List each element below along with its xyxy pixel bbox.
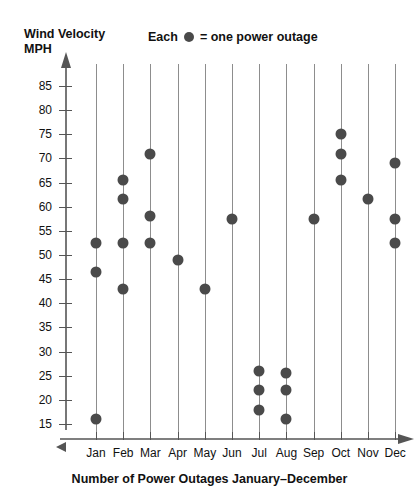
gridline-nov [368, 64, 369, 439]
gridline-mar [150, 64, 151, 439]
data-point [145, 148, 156, 159]
y-axis-tick-label: 25 [28, 369, 52, 383]
y-axis-tick-label: 50 [28, 248, 52, 262]
y-axis-tick [59, 400, 72, 401]
x-axis-label-jun: Jun [222, 446, 241, 460]
x-axis-label-jan: Jan [86, 446, 105, 460]
data-point [91, 237, 102, 248]
data-point [281, 368, 292, 379]
x-axis-tick [395, 432, 396, 440]
y-axis-tick-label: 55 [28, 224, 52, 238]
gridline-sep [314, 64, 315, 439]
gridline-apr [178, 64, 179, 439]
x-axis-tick [286, 432, 287, 440]
x-axis-tick [205, 432, 206, 440]
y-axis-tick [59, 376, 72, 377]
data-point [91, 414, 102, 425]
gridline-jan [96, 64, 97, 439]
x-axis-label-mar: Mar [140, 446, 161, 460]
y-axis-tick [59, 110, 72, 111]
gridline-dec [395, 64, 396, 439]
y-axis-tick [59, 255, 72, 256]
y-axis-tick-label: 20 [28, 393, 52, 407]
y-axis-tick [59, 134, 72, 135]
data-point [118, 175, 129, 186]
x-axis-tick [150, 432, 151, 440]
x-axis-label-jul: Jul [252, 446, 267, 460]
y-axis-tick [59, 207, 72, 208]
x-axis-tick [178, 432, 179, 440]
data-point [308, 213, 319, 224]
data-point [390, 213, 401, 224]
data-point [118, 283, 129, 294]
data-point [390, 237, 401, 248]
x-axis-label-aug: Aug [276, 446, 297, 460]
x-axis-label-feb: Feb [113, 446, 134, 460]
y-axis-tick [59, 352, 72, 353]
data-point [118, 194, 129, 205]
x-axis-label-dec: Dec [385, 446, 406, 460]
x-axis-tick [259, 432, 260, 440]
x-axis-label-nov: Nov [357, 446, 378, 460]
y-axis-tick [59, 158, 72, 159]
y-axis-tick [59, 183, 72, 184]
scatter-plot-chart: Wind VelocityMPH Each = one power outage… [0, 0, 419, 502]
data-point [145, 237, 156, 248]
data-point [118, 237, 129, 248]
y-axis-tick-label: 40 [28, 296, 52, 310]
data-point [91, 266, 102, 277]
data-point [254, 365, 265, 376]
x-axis-tick [96, 432, 97, 440]
x-axis-tick [123, 432, 124, 440]
y-axis-tick-label: 15 [28, 417, 52, 431]
gridline-oct [341, 64, 342, 439]
y-axis-tick [59, 86, 72, 87]
y-axis-tick-label: 70 [28, 151, 52, 165]
gridline-jun [232, 64, 233, 439]
data-point [335, 175, 346, 186]
x-axis-label-sep: Sep [303, 446, 324, 460]
y-axis-tick [59, 303, 72, 304]
y-axis-tick-label: 65 [28, 176, 52, 190]
y-axis-tick [59, 424, 72, 425]
y-axis-tick [59, 279, 72, 280]
data-point [145, 211, 156, 222]
x-axis-label-may: May [193, 446, 216, 460]
x-axis-label-apr: Apr [168, 446, 187, 460]
data-point [227, 213, 238, 224]
data-point [199, 283, 210, 294]
gridline-aug [286, 64, 287, 439]
plot-area: 858075706560555045403530252015JanFebMarA… [0, 0, 419, 502]
data-point [335, 148, 346, 159]
y-axis-tick [59, 231, 72, 232]
x-axis-title: Number of Power Outages January–December [72, 472, 348, 487]
gridline-may [205, 64, 206, 439]
data-point [254, 385, 265, 396]
data-point [281, 414, 292, 425]
y-axis-tick-label: 60 [28, 200, 52, 214]
data-point [390, 158, 401, 169]
x-axis-tick [341, 432, 342, 440]
y-axis-tick-label: 75 [28, 127, 52, 141]
y-axis-tick-label: 80 [28, 103, 52, 117]
data-point [172, 254, 183, 265]
y-axis-tick-label: 35 [28, 320, 52, 334]
data-point [335, 129, 346, 140]
data-point [281, 385, 292, 396]
y-axis-tick [59, 327, 72, 328]
y-axis-tick-label: 30 [28, 345, 52, 359]
x-axis-tick [232, 432, 233, 440]
data-point [363, 194, 374, 205]
gridline-feb [123, 64, 124, 439]
gridline-jul [259, 64, 260, 439]
x-axis-tick [368, 432, 369, 440]
x-axis-tick [314, 432, 315, 440]
data-point [254, 404, 265, 415]
x-axis-label-oct: Oct [331, 446, 350, 460]
y-axis-tick-label: 45 [28, 272, 52, 286]
y-axis-tick-label: 85 [28, 79, 52, 93]
